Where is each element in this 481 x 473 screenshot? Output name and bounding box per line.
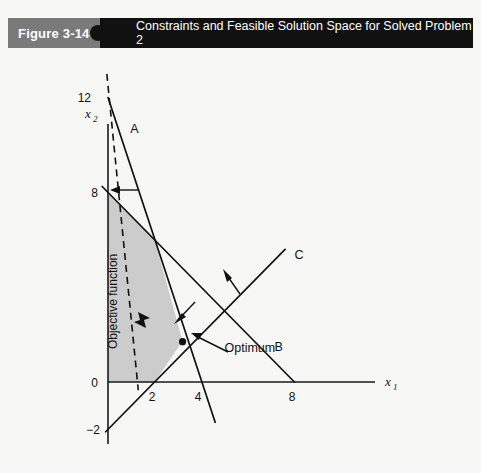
constraint-b-direction-arrow: [110, 186, 139, 194]
constraints-plot: x 2 x 1 12 8 0 −2 2 4 8 A B C Objective …: [0, 52, 481, 473]
y-tick-label-0: 0: [91, 376, 98, 390]
constraint-label-a: A: [130, 122, 139, 136]
y-axis-label: x: [84, 106, 91, 121]
plot-area: x 2 x 1 12 8 0 −2 2 4 8 A B C Objective …: [0, 52, 481, 473]
y-axis-label-subscript: 2: [93, 114, 98, 124]
x-tick-label-8: 8: [289, 390, 296, 404]
x-tick-label-4: 4: [195, 390, 202, 404]
figure-number-tag: Figure 3-14: [8, 18, 100, 48]
optimum-label: Optimum: [225, 341, 276, 355]
header-notch-decoration: [90, 25, 106, 41]
y-tick-label-8: 8: [91, 186, 98, 200]
x-tick-label-2: 2: [149, 390, 156, 404]
y-tick-label-minus2: −2: [86, 423, 100, 437]
objective-function-label: Objective function: [106, 254, 120, 349]
optimum-annotation: Optimum: [179, 333, 275, 355]
figure-header: Figure 3-14 Constraints and Feasible Sol…: [8, 18, 473, 48]
y-tick-label-12: 12: [78, 91, 92, 105]
figure-title: Constraints and Feasible Solution Space …: [100, 18, 473, 48]
figure-page: Figure 3-14 Constraints and Feasible Sol…: [0, 0, 481, 473]
x-axis-label: x: [384, 374, 391, 389]
constraint-label-c: C: [294, 248, 303, 262]
optimum-point-marker: [179, 338, 186, 345]
constraint-c-direction-arrow: [223, 269, 240, 294]
constraint-label-b: B: [275, 340, 283, 354]
x-axis-label-subscript: 1: [393, 382, 398, 392]
